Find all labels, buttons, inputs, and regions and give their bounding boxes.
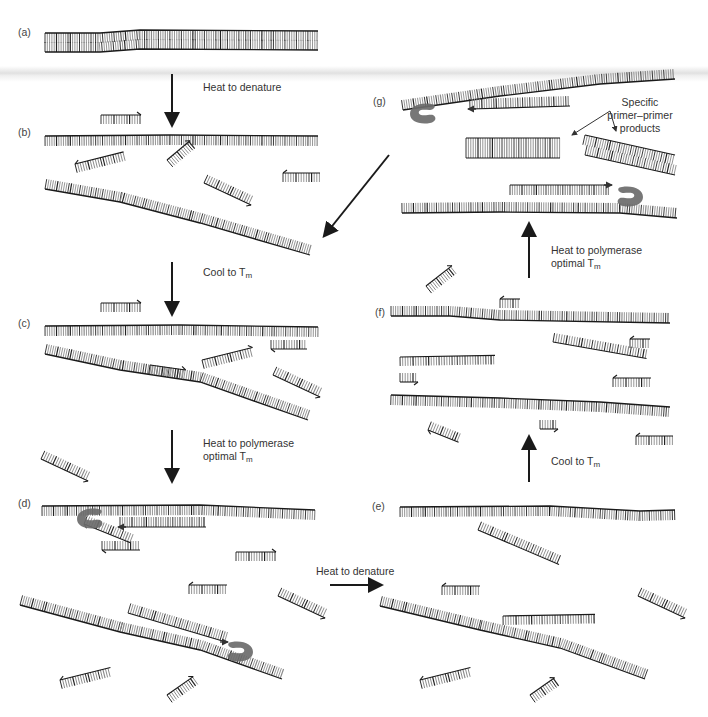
primer-b xyxy=(283,170,320,182)
panel-label-f: (f) xyxy=(375,306,385,318)
primer-e xyxy=(442,583,480,595)
primer-d xyxy=(102,541,140,553)
panel-label-g: (g) xyxy=(373,95,386,107)
primer-c xyxy=(272,367,324,400)
template-strand-f xyxy=(391,395,670,417)
primer-d xyxy=(83,516,134,546)
template-strand-b xyxy=(45,135,318,146)
primer-c xyxy=(271,340,307,352)
step-label-heat-to-polymerase-2: Heat to polymeraseoptimal Tm xyxy=(551,244,642,273)
dna-strands xyxy=(20,30,677,679)
template-strand-a xyxy=(45,39,318,52)
primer-f xyxy=(540,420,558,432)
primer-e xyxy=(528,675,559,702)
step-label-cool-to-tm-2: Cool to Tm xyxy=(551,455,600,471)
primer-b xyxy=(101,112,141,124)
template-strand-c xyxy=(45,325,318,337)
primer-c xyxy=(201,345,254,369)
annotation-specific-primer-products: Specific primer–primer products xyxy=(595,96,685,135)
primer-c xyxy=(149,362,186,379)
primer-e xyxy=(503,614,595,625)
template-strand-e xyxy=(380,596,648,679)
primer-f xyxy=(613,375,651,387)
primer-b xyxy=(74,149,125,173)
panel-label-b: (b) xyxy=(18,126,31,138)
primer-e xyxy=(419,665,472,689)
primer-f xyxy=(424,263,457,293)
primer-f xyxy=(400,373,418,385)
extension-duplexes xyxy=(118,96,676,642)
extension-g xyxy=(466,138,560,158)
primer-f xyxy=(400,355,495,366)
primer-d xyxy=(189,582,227,594)
primer-d xyxy=(277,588,329,621)
primer-f xyxy=(636,433,673,445)
primer-d xyxy=(165,674,198,702)
polymerase-icon xyxy=(618,187,643,207)
primer-b xyxy=(203,175,255,208)
extension-g xyxy=(583,135,676,175)
panel-label-c: (c) xyxy=(18,317,30,329)
primer-f xyxy=(553,333,648,358)
primer-c xyxy=(101,300,141,312)
primer-d xyxy=(59,665,112,689)
template-strand-d xyxy=(20,595,284,679)
panel-label-a: (a) xyxy=(18,26,31,38)
template-strand-f xyxy=(391,306,670,323)
extension-g xyxy=(510,185,612,195)
extension-d xyxy=(118,517,206,527)
template-strand-e xyxy=(400,506,675,521)
panel-label-d: (d) xyxy=(18,497,31,509)
step-label-cool-to-tm-1: Cool to Tm xyxy=(203,266,252,282)
primer-e xyxy=(637,588,689,621)
primer-f xyxy=(630,336,650,348)
template-strand-c xyxy=(45,344,310,420)
primer-e xyxy=(478,522,563,565)
template-strand-b xyxy=(45,179,311,255)
primer-d xyxy=(236,549,276,561)
arrow-g-b xyxy=(325,155,389,235)
primer-f xyxy=(500,296,520,308)
primer-f xyxy=(427,422,462,445)
step-label-heat-to-denature-1: Heat to denature xyxy=(203,81,281,94)
step-label-heat-to-denature-2: Heat to denature xyxy=(316,565,394,578)
panel-label-e: (e) xyxy=(372,500,385,512)
primer-c xyxy=(40,451,92,484)
step-label-heat-to-polymerase-1: Heat to polymeraseoptimal Tm xyxy=(203,437,294,466)
